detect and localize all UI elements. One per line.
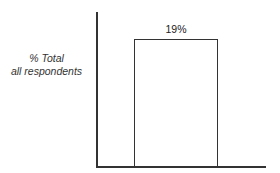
- bar-value-label: 19%: [134, 23, 218, 35]
- y-axis-label: % Total all respondents: [0, 52, 93, 78]
- y-axis-label-line-2: all respondents: [0, 65, 93, 78]
- bar: [134, 39, 218, 166]
- y-axis-label-line-1: % Total: [0, 52, 93, 65]
- x-axis: [96, 166, 266, 168]
- y-axis: [96, 12, 98, 167]
